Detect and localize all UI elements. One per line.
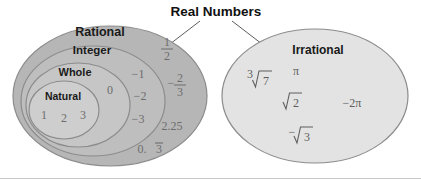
rational-set-label: Rational	[75, 25, 124, 39]
irrational-member-neg-2pi: −2π	[343, 96, 362, 110]
natural-member-1: 1	[41, 108, 47, 122]
venn-diagram-canvas: Real Numbers Rational Integer Whole Natu…	[0, 0, 421, 184]
integer-member-neg3: −3	[132, 112, 145, 126]
leader-line-left	[170, 21, 200, 44]
repeating-decimal-prefix: 0.	[138, 142, 147, 156]
whole-member-0: 0	[107, 83, 113, 97]
neg-two-thirds-numerator: 2	[177, 71, 183, 85]
natural-set-label: Natural	[45, 90, 81, 102]
leader-line-right	[232, 21, 262, 44]
integer-set-label: Integer	[73, 44, 112, 56]
cube-root-index: 3	[247, 67, 253, 81]
repeating-decimal-digit: 3	[156, 142, 162, 156]
rational-member-2-25: 2.25	[162, 119, 183, 133]
natural-member-2: 2	[61, 111, 67, 125]
integer-member-neg2: −2	[134, 89, 147, 103]
cube-root-radicand: 7	[263, 74, 269, 88]
neg-two-thirds-sign: −	[168, 76, 175, 90]
diagram-title: Real Numbers	[171, 4, 262, 19]
real-number-system-diagram: Real Numbers Rational Integer Whole Natu…	[0, 0, 421, 184]
integer-member-neg1: −1	[132, 67, 145, 81]
one-half-numerator: 1	[164, 35, 170, 49]
irrational-set-label: Irrational	[292, 43, 343, 57]
irrational-member-pi: π	[293, 64, 299, 78]
sqrt-two-radicand: 2	[293, 96, 299, 110]
neg-two-thirds-denominator: 3	[177, 85, 183, 99]
one-half-denominator: 2	[164, 49, 170, 63]
neg-sqrt-three-radicand: 3	[304, 130, 310, 144]
natural-member-3: 3	[80, 108, 86, 122]
whole-set-label: Whole	[59, 66, 92, 78]
